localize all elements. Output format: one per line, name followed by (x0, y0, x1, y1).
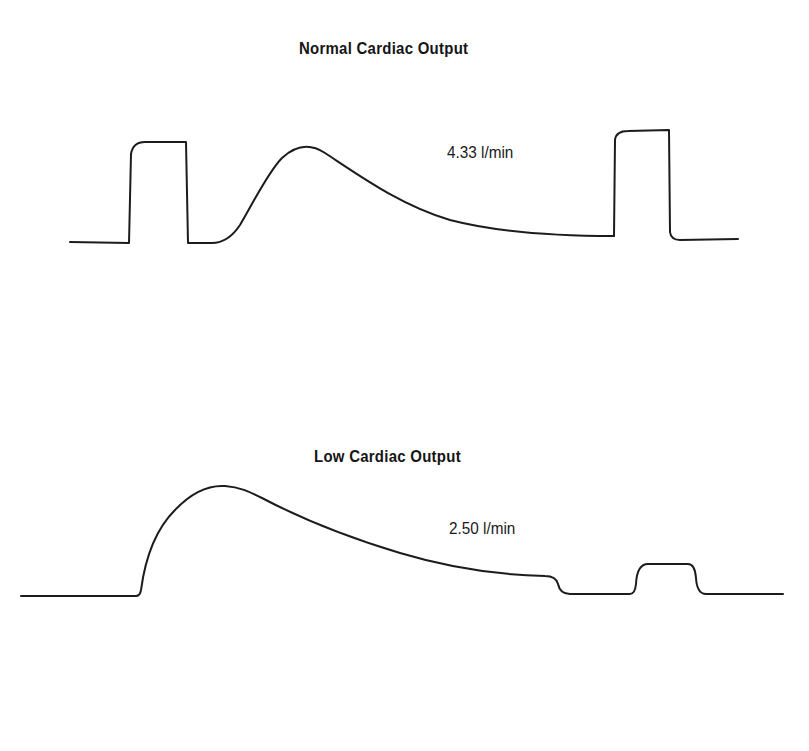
thermodilution-curve-low (0, 0, 809, 751)
dilution-curve-low (21, 486, 783, 596)
